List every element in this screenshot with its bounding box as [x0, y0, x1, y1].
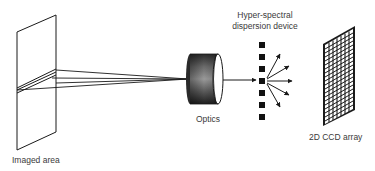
hyperspectral-diagram [0, 0, 375, 171]
ccd-array-label: 2D CCD array [309, 132, 362, 142]
dispersion-device-squares [259, 42, 265, 120]
dispersion-device-label-line1: Hyper-spectral [228, 10, 302, 20]
optics-label: Optics [186, 114, 230, 124]
dispersed-rays [267, 54, 292, 107]
dispersion-device-label-line2: dispersion device [228, 21, 302, 31]
optics-lens-icon [186, 54, 223, 104]
imaged-area-plane [17, 15, 56, 150]
ccd-array-grid [323, 26, 355, 126]
converging-rays [17, 70, 188, 90]
imaged-area-label: Imaged area [12, 155, 60, 165]
